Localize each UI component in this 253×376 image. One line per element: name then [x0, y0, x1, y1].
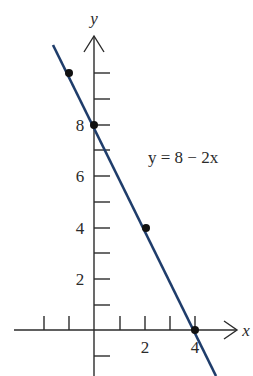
point-0-8 [90, 121, 98, 129]
point-neg1-10 [65, 69, 73, 77]
y-tick-label: 4 [76, 219, 85, 238]
chart: 8 6 4 2 2 4 y x y = 8 − 2x [0, 0, 253, 376]
y-tick-label: 2 [76, 270, 85, 289]
y-tick-label: 8 [76, 116, 85, 135]
y-axis-label: y [88, 9, 98, 28]
x-ticks [44, 316, 195, 330]
y-tick-label: 6 [76, 167, 85, 186]
y-ticks [94, 73, 110, 356]
equation-label: y = 8 − 2x [148, 148, 219, 167]
series-line [53, 45, 216, 376]
point-2-4 [142, 224, 150, 232]
x-axis-label: x [241, 321, 250, 340]
point-4-0 [191, 326, 199, 334]
x-tick-label: 2 [141, 338, 150, 357]
